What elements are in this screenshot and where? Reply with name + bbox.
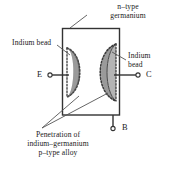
alloy-junction-transistor-figure: n–type germanium Indium bead Indium bead… (0, 0, 174, 176)
emitter-terminal-node (48, 73, 52, 77)
label-penetration-line3: p–type alloy (2, 148, 114, 157)
label-indium-bead-left: Indium bead (12, 38, 51, 47)
label-indium-bead-right-line2: bead (128, 60, 172, 69)
leader-line-penetration-left (42, 96, 79, 128)
leader-line-indium-bead-left (57, 45, 70, 55)
label-n-type-line1: n–type (86, 2, 170, 11)
terminal-label-collector: C (146, 70, 152, 79)
label-n-type-line2: germanium (86, 11, 170, 20)
leader-line-ntype (70, 15, 87, 28)
label-indium-bead-right-line1: Indium (128, 51, 172, 60)
leader-line-penetration-right (42, 93, 108, 128)
left-bead-penetration-region (67, 48, 80, 97)
terminal-label-emitter: E (37, 70, 42, 79)
collector-terminal-node (136, 73, 140, 77)
label-penetration-alloy: Penetration of indium–germanium p–type a… (2, 130, 114, 158)
label-indium-bead-right: Indium bead (128, 51, 172, 69)
label-penetration-line1: Penetration of (2, 130, 114, 139)
label-penetration-line2: indium–germanium (2, 139, 114, 148)
terminal-label-base: B (122, 123, 128, 132)
label-n-type-germanium: n–type germanium (86, 2, 170, 20)
